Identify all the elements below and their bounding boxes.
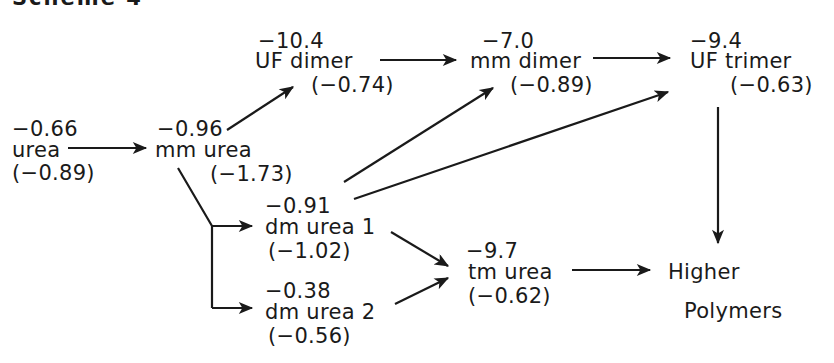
urea-label: urea <box>12 139 60 161</box>
tm-urea-value-top: −9.7 <box>466 240 518 262</box>
dm-urea-2-value-top: −0.38 <box>265 280 331 302</box>
arrow-dm-urea-1-to-mm-dimer <box>344 88 493 182</box>
uf-dimer-value-bottom: (−0.74) <box>311 74 394 96</box>
dm-urea-1-label: dm urea 1 <box>265 216 375 238</box>
mm-urea-value-top: −0.96 <box>157 118 223 140</box>
urea-value-bottom: (−0.89) <box>12 162 95 184</box>
higher-polymers-line2: Polymers <box>684 300 782 322</box>
arrow-mm-urea-to-uf-dimer <box>227 87 293 130</box>
mm-urea-label: mm urea <box>155 139 252 161</box>
mm-dimer-value-bottom: (−0.89) <box>510 74 593 96</box>
dm-urea-1-value-bottom: (−1.02) <box>268 240 351 262</box>
dm-urea-2-value-bottom: (−0.56) <box>268 325 351 347</box>
branch-mm-urea <box>178 168 212 308</box>
arrow-dm-urea-1-to-tm-urea <box>391 232 448 266</box>
mm-dimer-label: mm dimer <box>470 50 581 72</box>
tm-urea-label: tm urea <box>468 261 553 283</box>
arrow-dm-urea-2-to-tm-urea <box>395 278 448 304</box>
dm-urea-2-label: dm urea 2 <box>265 301 375 323</box>
uf-trimer-value-bottom: (−0.63) <box>730 74 813 96</box>
uf-trimer-label: UF trimer <box>690 50 792 72</box>
higher-polymers-line1: Higher <box>668 261 740 283</box>
uf-dimer-label: UF dimer <box>255 50 353 72</box>
dm-urea-1-value-top: −0.91 <box>265 195 331 217</box>
tm-urea-value-bottom: (−0.62) <box>468 285 551 307</box>
mm-urea-value-bottom: (−1.73) <box>210 163 293 185</box>
urea-value-top: −0.66 <box>12 118 78 140</box>
